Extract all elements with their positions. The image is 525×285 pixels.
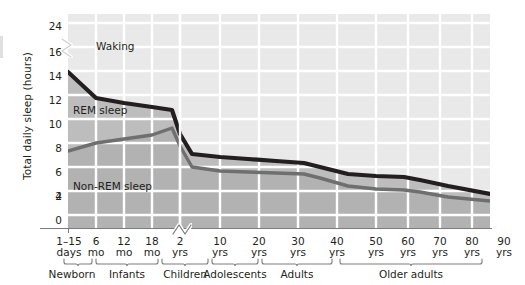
x-axis-break-icon [172, 222, 192, 236]
plot-area: Waking REM sleep Non-REM sleep [68, 14, 490, 228]
x-axis-line [40, 228, 492, 229]
x-tick-30-yrs: 30 yrs [278, 236, 318, 258]
group-label-newborn: Newborn [42, 268, 102, 280]
x-tick-20-yrs: 20 yrs [239, 236, 279, 258]
x-tick-40-yrs: 40 yrs [317, 236, 357, 258]
page-edge-artifact [0, 36, 3, 58]
band-label-rem: REM sleep [73, 104, 127, 116]
x-tick-90-yrs: 90 yrs [484, 236, 524, 258]
group-label-adolescents: Adolescents [195, 268, 275, 280]
y-tick-0: 0 [40, 215, 62, 225]
x-tick-2-yrs: 2 yrs [160, 236, 200, 258]
y-axis-break-icon [60, 38, 76, 58]
band-label-nonrem: Non-REM sleep [73, 180, 152, 192]
tickmark-newborn [68, 228, 69, 233]
x-tick-10-yrs: 10 yrs [200, 236, 240, 258]
group-label-older-adults: Older adults [371, 268, 451, 280]
y-axis-title: Total daily sleep (hours) [21, 31, 37, 201]
y-tick-2: 2 [40, 191, 62, 201]
group-label-adults: Adults [267, 268, 327, 280]
group-label-infants: Infants [97, 268, 157, 280]
sleep-chart-figure: Total daily sleep (hours) 24 16 14 12 10… [0, 0, 525, 285]
band-label-waking: Waking [96, 40, 134, 52]
